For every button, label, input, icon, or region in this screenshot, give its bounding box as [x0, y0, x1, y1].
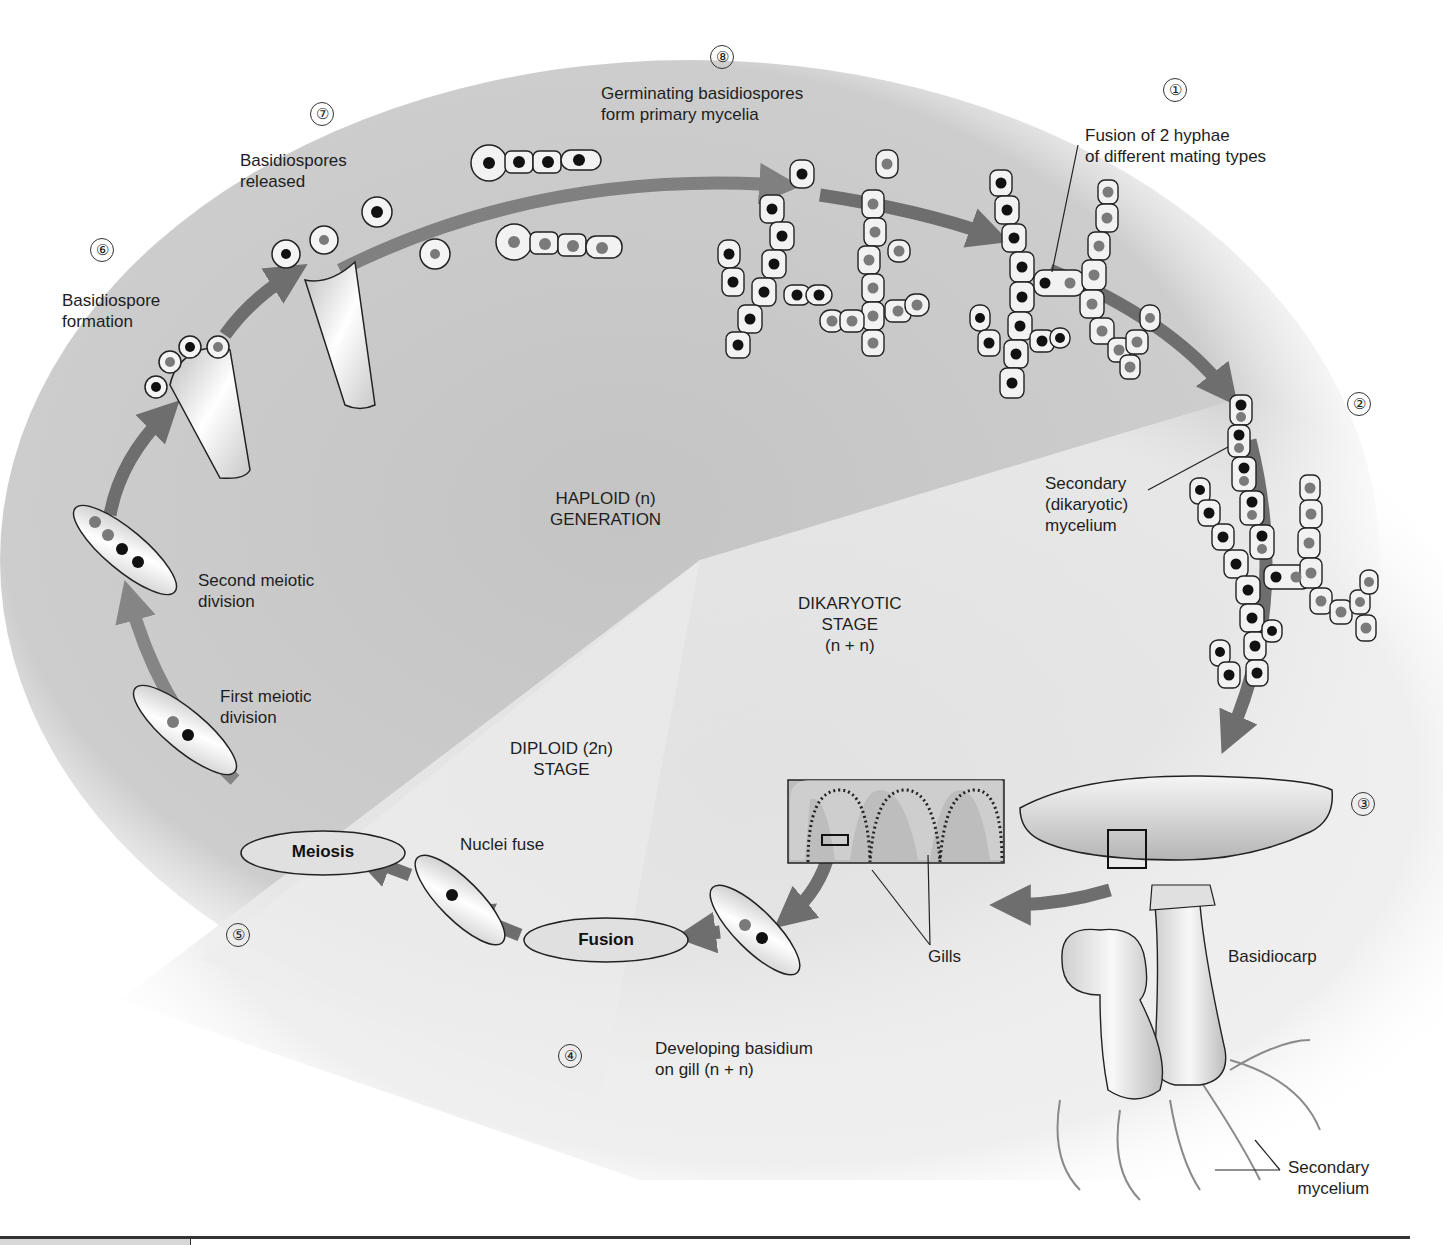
bottom-rule: [0, 1236, 1410, 1239]
label-gills: Gills: [928, 946, 961, 967]
label-first-meiotic-division: First meiotic division: [220, 686, 312, 728]
step-number-5: ⑤: [226, 923, 250, 947]
label-meiosis: Meiosis: [241, 842, 405, 862]
label-fusion-of-hyphae: Fusion of 2 hyphae of different mating t…: [1085, 125, 1266, 167]
label-diploid-stage: DIPLOID (2n) STAGE: [510, 738, 613, 780]
step-number-1: ①: [1163, 78, 1187, 102]
step-number-4: ④: [558, 1044, 582, 1068]
label-dikaryotic-stage: DIKARYOTIC STAGE (n + n): [798, 593, 902, 656]
label-basidiocarp: Basidiocarp: [1228, 946, 1317, 967]
label-basidiospores-released: Basidiospores released: [240, 150, 347, 192]
label-haploid-generation: HAPLOID (n) GENERATION: [550, 488, 661, 530]
label-secondary-mycelium: Secondary mycelium: [1288, 1157, 1369, 1199]
bottom-tab: [0, 1239, 191, 1245]
step-number-7: ⑦: [310, 102, 334, 126]
label-secondary-dikaryotic-mycelium: Secondary (dikaryotic) mycelium: [1045, 473, 1128, 536]
step-number-2: ②: [1347, 392, 1371, 416]
label-basidiospore-formation: Basidiospore formation: [62, 290, 160, 332]
label-germinating-basidiospores: Germinating basidiospores form primary m…: [601, 83, 803, 125]
step-number-6: ⑥: [90, 238, 114, 262]
step-number-8: ⑧: [710, 45, 734, 69]
fungal-life-cycle-diagram: ⑧ ① ⑦ ⑥ ② ③ ⑤ ④ Germinating basidiospore…: [0, 0, 1443, 1245]
step-number-3: ③: [1351, 792, 1375, 816]
label-developing-basidium: Developing basidium on gill (n + n): [655, 1038, 813, 1080]
label-second-meiotic-division: Second meiotic division: [198, 570, 314, 612]
label-nuclei-fuse: Nuclei fuse: [460, 834, 544, 855]
label-fusion: Fusion: [524, 930, 688, 950]
